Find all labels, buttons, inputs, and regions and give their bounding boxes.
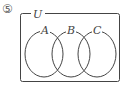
set-c-label: C bbox=[93, 24, 102, 37]
venn-diagram: U A B C bbox=[0, 0, 125, 89]
set-c-circle bbox=[78, 31, 116, 77]
universe-label: U bbox=[33, 8, 43, 21]
set-b-label: B bbox=[66, 24, 75, 37]
set-a-label: A bbox=[40, 24, 49, 37]
set-b-circle bbox=[52, 31, 90, 77]
